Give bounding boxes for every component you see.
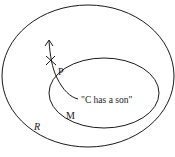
label-R: R (33, 121, 40, 132)
label-P: P (58, 66, 64, 77)
diagram-canvas: P "C has a son" M R (0, 0, 175, 157)
outer-region-R (2, 5, 174, 147)
label-C-has-a-son: "C has a son" (81, 95, 132, 105)
label-M: M (66, 110, 75, 121)
